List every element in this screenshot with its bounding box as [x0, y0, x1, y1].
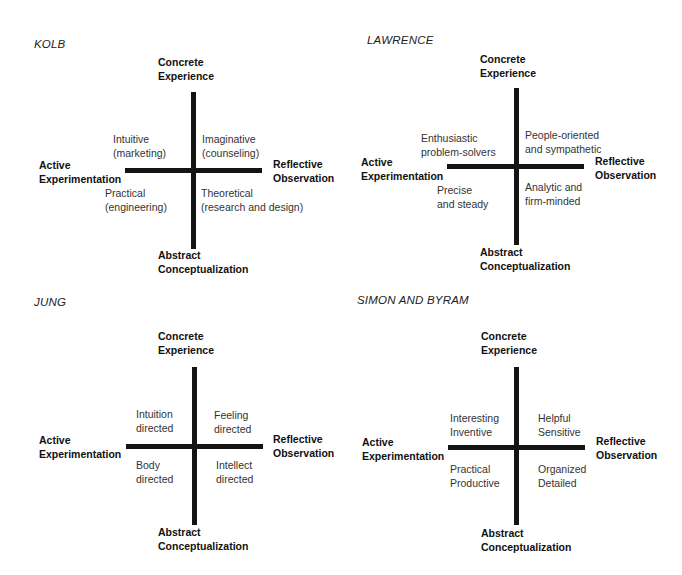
quadrant-bottom-left: Practical Productive	[450, 463, 500, 490]
axis-label-top: Concrete Experience	[158, 55, 214, 83]
quadrant-bottom-left: Practical (engineering)	[105, 187, 167, 214]
axis-label-top: Concrete Experience	[481, 329, 537, 357]
quadrant-bottom-right: Intellect directed	[216, 459, 253, 486]
diagram-jung: JUNG Concrete Experience Active Experime…	[0, 285, 341, 575]
axis-label-left: Active Experimentation	[39, 158, 121, 186]
quadrant-bottom-left: Precise and steady	[437, 184, 488, 211]
axis-label-right: Reflective Observation	[273, 432, 334, 460]
quadrant-top-right: People-oriented and sympathetic	[525, 129, 601, 156]
diagram-simon-and-byram: SIMON AND BYRAM Concrete Experience Acti…	[341, 285, 682, 575]
quadrant-bottom-right: Theoretical (research and design)	[201, 187, 303, 214]
quadrant-top-right: Helpful Sensitive	[538, 412, 581, 439]
horizontal-axis	[448, 445, 585, 450]
axis-label-bottom: Abstract Conceptualization	[480, 245, 570, 273]
horizontal-axis	[447, 164, 584, 169]
quadrant-bottom-right: Organized Detailed	[538, 463, 586, 490]
axis-label-bottom: Abstract Conceptualization	[481, 526, 571, 554]
quadrant-top-right: Feeling directed	[214, 409, 251, 436]
quadrant-top-left: Interesting Inventive	[450, 412, 499, 439]
axis-label-right: Reflective Observation	[273, 157, 334, 185]
axis-label-top: Concrete Experience	[158, 329, 214, 357]
axis-label-right: Reflective Observation	[595, 154, 656, 182]
axis-label-left: Active Experimentation	[361, 155, 443, 183]
quadrant-top-left: Intuition directed	[136, 408, 173, 435]
diagram-title: JUNG	[34, 296, 66, 308]
axis-label-left: Active Experimentation	[39, 433, 121, 461]
diagram-kolb: KOLB Concrete Experience Active Experime…	[0, 0, 341, 290]
horizontal-axis	[126, 444, 263, 449]
diagram-title: SIMON AND BYRAM	[357, 294, 469, 306]
quadrant-top-left: Intuitive (marketing)	[113, 133, 166, 160]
diagram-lawrence: LAWRENCE Concrete Experience Active Expe…	[341, 0, 682, 290]
quadrant-top-left: Enthusiastic problem-solvers	[421, 132, 496, 159]
axis-label-right: Reflective Observation	[596, 434, 657, 462]
diagram-title: LAWRENCE	[367, 34, 434, 46]
quadrant-top-right: Imaginative (counseling)	[202, 133, 259, 160]
diagram-title: KOLB	[34, 38, 65, 50]
axis-label-top: Concrete Experience	[480, 52, 536, 80]
horizontal-axis	[125, 168, 262, 173]
quadrant-bottom-left: Body directed	[136, 459, 173, 486]
axis-label-left: Active Experimentation	[362, 435, 444, 463]
axis-label-bottom: Abstract Conceptualization	[158, 525, 248, 553]
quadrant-bottom-right: Analytic and firm-minded	[525, 181, 582, 208]
axis-label-bottom: Abstract Conceptualization	[158, 248, 248, 276]
